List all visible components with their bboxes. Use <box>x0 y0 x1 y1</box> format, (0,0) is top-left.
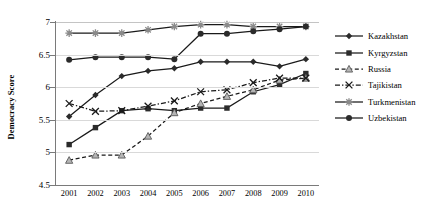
diamond-marker <box>145 68 151 74</box>
legend-label: Tajikistan <box>364 80 402 90</box>
legend-label: Kyrgyzstan <box>364 48 407 58</box>
legend-swatch <box>334 47 364 59</box>
legend-item-russia[interactable]: Russia <box>334 61 444 77</box>
legend-item-kazakhstan[interactable]: Kazakhstan <box>334 28 444 44</box>
y-axis-tick-labels: 4.555.566.57 <box>20 0 50 213</box>
y-tick-mark <box>50 87 55 88</box>
legend-swatch <box>334 79 364 91</box>
circle-marker <box>66 57 72 63</box>
circle-marker <box>277 26 283 32</box>
circle-marker <box>171 56 177 62</box>
diamond-marker <box>197 59 203 65</box>
gridline <box>56 152 319 153</box>
star-marker <box>92 29 100 37</box>
diamond-marker <box>224 59 230 65</box>
x-axis-tick-labels: 2001200220032004200520062007200820092010 <box>56 189 319 205</box>
series-kyrgyzstan <box>66 71 308 147</box>
legend-label: Uzbekistan <box>364 113 407 123</box>
y-tick-mark <box>50 152 55 153</box>
x-tick-label: 2003 <box>113 189 130 198</box>
x-tick-label: 2009 <box>271 189 288 198</box>
legend-item-uzbekistan[interactable]: Uzbekistan <box>334 110 444 126</box>
x-marker <box>92 108 99 115</box>
y-tick-mark <box>50 55 55 56</box>
legend-label: Russia <box>364 64 391 74</box>
diamond-marker <box>346 33 352 39</box>
y-tick-mark <box>50 120 55 121</box>
legend-swatch <box>334 63 364 75</box>
x-tick-label: 2004 <box>140 189 157 198</box>
gridline <box>56 120 319 121</box>
star-marker <box>65 29 73 37</box>
legend: KazakhstanKyrgyzstanRussiaTajikistanTurk… <box>334 28 444 126</box>
gridline <box>56 22 319 23</box>
series-turkmenistan <box>65 21 309 37</box>
legend-swatch <box>334 96 364 108</box>
triangle-marker <box>197 100 204 107</box>
star-marker <box>144 26 152 34</box>
circle-marker <box>198 31 204 37</box>
legend-label: Turkmenistan <box>364 97 415 107</box>
x-tick-label: 2006 <box>192 189 209 198</box>
y-tick-label: 4.5 <box>39 180 50 190</box>
y-tick-label: 5.5 <box>39 115 50 125</box>
series-layer <box>56 22 319 185</box>
x-marker <box>66 100 73 107</box>
legend-swatch <box>334 30 364 42</box>
diamond-marker <box>250 59 256 65</box>
legend-item-kyrgyzstan[interactable]: Kyrgyzstan <box>334 44 444 60</box>
series-line <box>69 74 306 145</box>
diamond-marker <box>276 63 282 69</box>
square-marker <box>224 105 229 110</box>
y-axis-title: Democracy Score <box>2 0 20 213</box>
circle-marker <box>224 31 230 37</box>
diamond-marker <box>303 56 309 62</box>
legend-swatch <box>334 112 364 124</box>
star-marker <box>118 29 126 37</box>
y-tick-label: 6.5 <box>39 50 50 60</box>
x-tick-label: 2005 <box>166 189 183 198</box>
circle-marker <box>250 28 256 34</box>
series-line <box>69 25 306 33</box>
legend-item-turkmenistan[interactable]: Turkmenistan <box>334 94 444 110</box>
legend-label: Kazakhstan <box>364 31 408 41</box>
square-marker <box>346 50 351 55</box>
y-tick-mark <box>50 22 55 23</box>
x-axis-line <box>55 185 319 186</box>
series-uzbekistan <box>66 24 309 63</box>
square-marker <box>93 125 98 130</box>
plot-area <box>56 22 319 185</box>
y-tick-mark <box>50 185 55 186</box>
x-tick-label: 2002 <box>87 189 104 198</box>
legend-item-tajikistan[interactable]: Tajikistan <box>334 77 444 93</box>
x-tick-label: 2007 <box>219 189 236 198</box>
square-marker <box>66 142 71 147</box>
diamond-marker <box>171 65 177 71</box>
x-tick-label: 2001 <box>61 189 78 198</box>
circle-marker <box>346 115 352 121</box>
star-marker <box>345 98 353 106</box>
y-axis-title-label: Democracy Score <box>6 74 16 139</box>
x-tick-label: 2008 <box>245 189 262 198</box>
gridline <box>56 55 319 56</box>
democracy-score-chart: Democracy Score 4.555.566.57 20012002200… <box>0 0 444 213</box>
circle-marker <box>303 24 309 30</box>
star-marker <box>171 23 179 31</box>
gridline <box>56 87 319 88</box>
x-tick-label: 2010 <box>298 189 315 198</box>
